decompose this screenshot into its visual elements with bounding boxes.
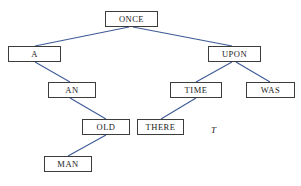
- tree-node-a[interactable]: A: [8, 46, 61, 62]
- tree-node-label: OLD: [97, 123, 116, 132]
- tree-edge-upon-was: [236, 62, 270, 82]
- tree-node-time[interactable]: TIME: [170, 82, 222, 98]
- tree-label: T: [211, 126, 216, 135]
- tree-edge-once-upon: [133, 27, 232, 46]
- tree-node-once[interactable]: ONCE: [105, 11, 158, 27]
- tree-diagram-figure: ONCEAUPONANTIMEWASOLDTHEREMAN T: [0, 0, 301, 186]
- tree-edge-once-a: [35, 27, 129, 46]
- tree-node-label: ONCE: [119, 15, 144, 24]
- tree-edge-an-old: [70, 98, 106, 119]
- tree-node-upon[interactable]: UPON: [208, 46, 261, 62]
- tree-edge-time-there: [161, 98, 196, 119]
- tree-edge-old-man: [68, 135, 106, 156]
- tree-node-label: UPON: [222, 50, 247, 59]
- tree-edge-upon-time: [196, 62, 232, 82]
- tree-node-old[interactable]: OLD: [82, 119, 130, 135]
- tree-node-was[interactable]: WAS: [246, 82, 295, 98]
- tree-node-an[interactable]: AN: [48, 82, 96, 98]
- tree-node-label: MAN: [57, 160, 78, 169]
- tree-node-label: AN: [65, 86, 78, 95]
- tree-node-there[interactable]: THERE: [137, 119, 184, 135]
- tree-node-label: WAS: [261, 86, 280, 95]
- tree-node-man[interactable]: MAN: [44, 156, 92, 172]
- tree-node-label: TIME: [185, 86, 208, 95]
- tree-node-label: A: [31, 50, 38, 59]
- tree-node-label: THERE: [146, 123, 176, 132]
- tree-edge-a-an: [35, 62, 70, 82]
